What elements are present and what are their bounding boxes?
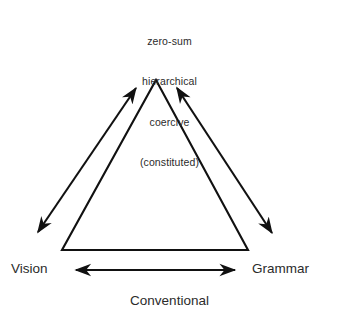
apex-label-line-1: zero-sum [0,35,339,48]
apex-label-line-2: hierarchical [0,75,339,88]
vertex-label-vision: Vision [11,260,48,277]
apex-label-line-4: (constituted) [0,156,339,169]
apex-label: zero-sum hierarchical coercive (constitu… [0,8,339,196]
triangle-diagram: zero-sum hierarchical coercive (constitu… [0,0,339,324]
apex-label-line-3: coercive [0,116,339,129]
bottom-caption-conventional: Conventional [0,292,339,309]
vertex-label-grammar: Grammar [252,260,309,277]
